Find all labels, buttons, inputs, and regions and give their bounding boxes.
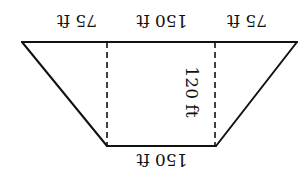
top-right-segment-label: 75 ft (227, 11, 267, 31)
bottom-base-label: 150 ft (136, 150, 187, 170)
top-middle-segment-label: 150 ft (136, 11, 187, 31)
height-label: 120 ft (182, 67, 202, 118)
right-leg-line (216, 42, 297, 146)
top-left-segment-label: 75 ft (57, 11, 97, 31)
trapezoid-diagram: 75 ft 150 ft 75 ft 120 ft 150 ft (0, 0, 305, 193)
left-leg-line (22, 42, 107, 146)
